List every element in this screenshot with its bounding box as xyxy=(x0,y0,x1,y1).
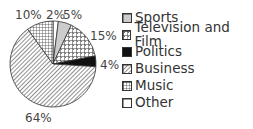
legend: Sports Television and Film Politics Busi… xyxy=(122,9,253,111)
legend-item-tv: Television and Film xyxy=(122,26,253,43)
swatch-grid-icon xyxy=(122,81,132,91)
swatch-gray-icon xyxy=(122,13,132,23)
label-business: 64% xyxy=(25,112,52,124)
label-music: 10% xyxy=(15,9,42,21)
legend-item-music: Music xyxy=(122,77,253,94)
legend-item-other: Other xyxy=(122,94,253,111)
swatch-checker-icon xyxy=(122,30,131,40)
swatch-diagonal-icon xyxy=(122,64,132,74)
label-politics: 4% xyxy=(100,59,119,71)
swatch-white-icon xyxy=(122,98,132,108)
legend-item-business: Business xyxy=(122,60,253,77)
label-tv: 15% xyxy=(90,30,117,42)
label-sports: 5% xyxy=(63,9,82,21)
swatch-black-icon xyxy=(122,47,132,57)
